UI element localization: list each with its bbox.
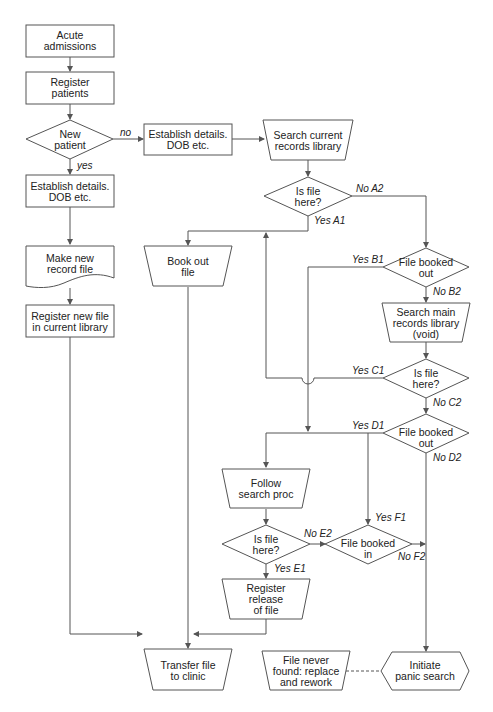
svg-text:record file: record file [47,263,93,275]
svg-text:file: file [181,266,195,278]
svg-text:in current library: in current library [32,321,108,333]
node-register-new-file: Register new file in current library [26,305,114,337]
svg-text:of file: of file [253,604,278,616]
svg-text:here?: here? [295,196,322,208]
svg-text:search proc: search proc [239,488,294,500]
flowchart: Acute admissions Register patients New p… [0,0,493,712]
label-yes: yes [76,160,93,171]
svg-text:and rework: and rework [280,676,333,688]
node-file-booked-out-d: File booked out [383,414,469,453]
node-follow-search: Follow search proc [222,469,310,508]
svg-text:records library: records library [275,140,342,152]
node-make-new-record: Make new record file [26,246,114,288]
label-no-d2: No D2 [433,452,462,463]
node-register-release: Register release of file [222,579,310,619]
node-file-booked-out-b: File booked out [383,248,469,287]
svg-text:admissions: admissions [44,40,97,52]
svg-text:out: out [419,437,434,449]
node-new-patient: New patient [26,120,113,159]
svg-text:in: in [364,548,372,560]
svg-text:panic search: panic search [395,670,455,682]
svg-text:to clinic: to clinic [170,670,205,682]
edge-isfileA-no [352,196,426,247]
node-search-current: Search current records library [263,120,353,160]
node-is-file-here-c: Is file here? [383,359,469,398]
node-initiate-panic: Initiate panic search [381,652,469,690]
node-is-file-here-a: Is file here? [264,177,352,216]
node-transfer-file: Transfer file to clinic [144,649,232,690]
svg-text:patients: patients [52,87,89,99]
label-no: no [120,127,132,138]
label-yes-f1: Yes F1 [375,512,406,523]
label-yes-b1: Yes B1 [352,254,384,265]
node-acute-admissions: Acute admissions [26,25,114,57]
label-no-e2: No E2 [304,528,332,539]
label-yes-d1: Yes D1 [352,420,384,431]
label-no-a2: No A2 [356,183,384,194]
edge-registernew-merge [70,337,142,634]
label-yes-a1: Yes A1 [314,215,345,226]
edge-isfileA-yes [188,216,308,245]
label-no-b2: No B2 [433,286,461,297]
svg-text:here?: here? [413,378,440,390]
node-establish-details-top: Establish details. DOB etc. [144,124,232,155]
label-yes-c1: Yes C1 [352,365,384,376]
node-register-patients: Register patients [26,72,114,104]
svg-text:DOB etc.: DOB etc. [49,191,92,203]
svg-text:(void): (void) [413,328,439,340]
svg-text:out: out [419,267,434,279]
label-no-c2: No C2 [433,397,462,408]
node-establish-details-left: Establish details. DOB etc. [26,175,114,207]
svg-text:patient: patient [54,139,86,151]
node-book-out-file: Book out file [144,246,232,286]
label-yes-e1: Yes E1 [274,563,306,574]
svg-text:DOB etc.: DOB etc. [167,139,210,151]
node-search-main: Search main records library (void) [382,303,470,342]
node-file-never-found: File never found: replace and rework [262,651,350,690]
label-no-f2: No F2 [398,551,426,562]
node-is-file-here-e: Is file here? [222,525,310,564]
svg-text:here?: here? [253,544,280,556]
edge-release-merge [194,619,266,634]
edge-bookedoutD-yes [266,433,383,467]
